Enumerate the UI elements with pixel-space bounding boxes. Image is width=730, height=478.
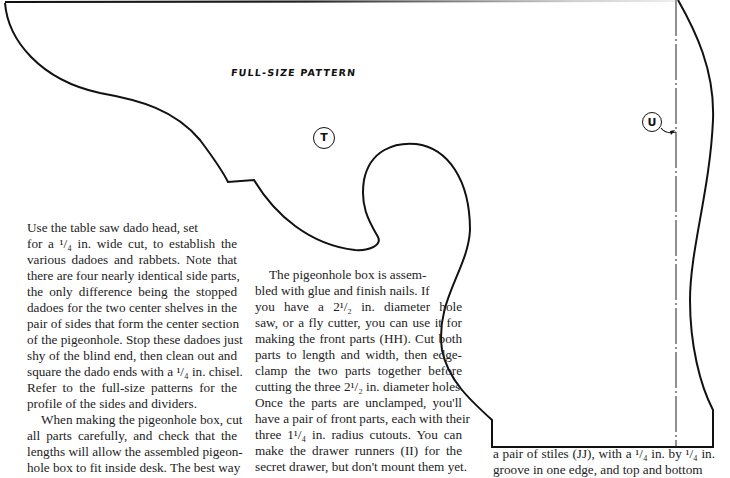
text-line: The pigeonhole box is assem- xyxy=(255,267,462,283)
text-line: bled with glue and finish nails. If xyxy=(255,283,462,299)
text-line: have a pair of front parts, each with th… xyxy=(255,411,462,427)
text-line: pair of sides that form the center secti… xyxy=(27,316,237,332)
text-line: Refer to the full-size patterns for the xyxy=(27,380,237,396)
text-line: Once the parts are unclamped, you'll xyxy=(255,395,462,411)
part-marker-t: T xyxy=(313,127,335,149)
text-line: cutting the three 2¹/₂ in. diameter hole… xyxy=(255,379,462,395)
text-line: secret drawer, but don't mount them yet. xyxy=(255,459,462,475)
text-line: you have a 2¹/₂ in. diameter hole xyxy=(255,299,462,315)
text-line: lengths will allow the assembled pigeon- xyxy=(27,444,237,460)
text-line: make the drawer runners (II) for the xyxy=(255,443,462,459)
text-line: there are four nearly identical side par… xyxy=(27,268,237,284)
text-column-middle: The pigeonhole box is assem- bled with g… xyxy=(255,267,462,475)
text-column-left: Use the table saw dado head, set for a ¹… xyxy=(27,220,237,476)
pattern-title: FULL-SIZE PATTERN xyxy=(230,67,357,78)
text-line: square the dado ends with a ¹/₄ in. chis… xyxy=(27,364,237,380)
text-line: When making the pigeonhole box, cut xyxy=(27,412,237,428)
text-line: Use the table saw dado head, set xyxy=(27,220,237,236)
text-line: the only difference being the stopped xyxy=(27,284,237,300)
text-column-right: a pair of stiles (JJ), with a ¹/₄ in. by… xyxy=(493,446,715,478)
text-line: hole box to fit inside desk. The best wa… xyxy=(27,460,237,476)
text-line: dadoes for the two center shelves in the xyxy=(27,300,237,316)
text-line: profile of the sides and dividers. xyxy=(27,396,237,412)
text-line: various dadoes and rabbets. Note that xyxy=(27,252,237,268)
text-line: parts to length and width, then edge- xyxy=(255,347,462,363)
part-marker-u: U xyxy=(642,112,662,132)
pattern-top-edge xyxy=(5,1,675,2)
text-line: a pair of stiles (JJ), with a ¹/₄ in. by… xyxy=(493,446,715,462)
text-line: clamp the two parts together before xyxy=(255,363,462,379)
text-line: groove in one edge, and top and bottom xyxy=(493,462,715,478)
text-line: saw, or a fly cutter, you can use it for xyxy=(255,315,462,331)
text-line: all parts carefully, and check that the xyxy=(27,428,237,444)
text-line: of the pigeonhole. Stop these dadoes jus… xyxy=(27,332,237,348)
text-line: for a ¹/₄ in. wide cut, to establish the xyxy=(27,236,237,252)
text-line: three 1¹/₄ in. radius cutouts. You can xyxy=(255,427,462,443)
text-line: making the front parts (HH). Cut both xyxy=(255,331,462,347)
text-line: shy of the blind end, then clean out and xyxy=(27,348,237,364)
